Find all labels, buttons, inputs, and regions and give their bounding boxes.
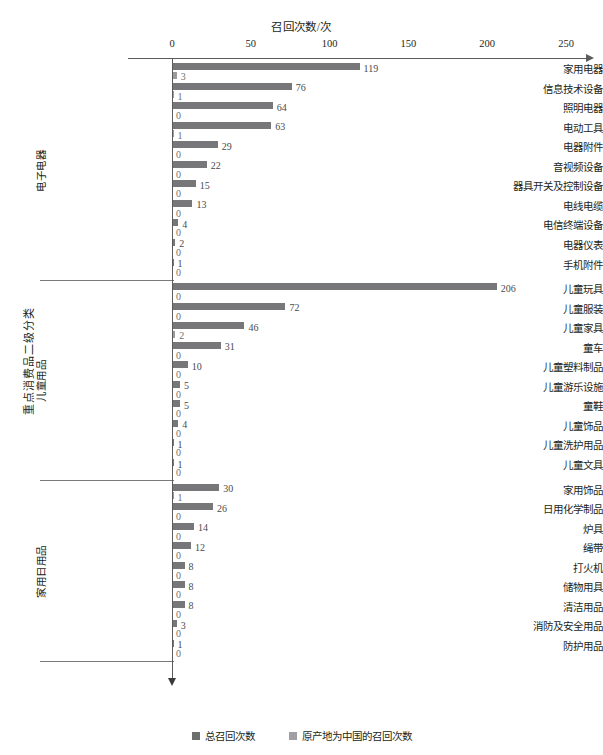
- bar-total: [172, 200, 192, 207]
- bar-total: [172, 342, 221, 349]
- bar-china-value: 0: [176, 409, 181, 418]
- table-row: 童车310: [0, 341, 603, 361]
- bar-china-value: 0: [176, 351, 181, 360]
- legend-item-total[interactable]: 总召回次数: [192, 728, 255, 743]
- category-label: 儿童塑料制品: [433, 361, 603, 374]
- table-row: 儿童饰品40: [0, 419, 603, 439]
- category-label: 电信终端设备: [433, 219, 603, 232]
- bar-total-value: 8: [189, 601, 194, 610]
- bar-total: [172, 180, 196, 187]
- bar-china-value: 0: [176, 370, 181, 379]
- bar-china-value: 0: [176, 429, 181, 438]
- table-row: 储物用具80: [0, 580, 603, 600]
- table-row: 儿童玩具2060: [0, 282, 603, 302]
- table-row: 儿童游乐设施50: [0, 380, 603, 400]
- category-label: 照明电器: [433, 102, 603, 115]
- x-axis-tick-label: 0: [169, 38, 174, 49]
- bar-total-value: 4: [182, 420, 187, 429]
- bar-china-value: 0: [176, 512, 181, 521]
- table-row: 手机附件10: [0, 258, 603, 278]
- legend-swatch-china: [289, 732, 297, 740]
- bar-total: [172, 361, 188, 368]
- bar-china-value: 0: [176, 170, 181, 179]
- legend-swatch-total: [192, 732, 200, 740]
- category-label: 消防及安全用品: [433, 620, 603, 633]
- bar-total-value: 76: [296, 83, 306, 92]
- bar-china-value: 0: [176, 590, 181, 599]
- table-row: 照明电器640: [0, 101, 603, 121]
- bar-china-value: 0: [176, 629, 181, 638]
- bar-china-value: 0: [176, 268, 181, 277]
- category-label: 家用饰品: [433, 484, 603, 497]
- x-axis-tick-label: 50: [246, 38, 257, 49]
- category-label: 储物用具: [433, 581, 603, 594]
- bar-total: [172, 122, 271, 129]
- bar-total: [172, 141, 218, 148]
- category-label: 家用电器: [433, 63, 603, 76]
- table-row: 家用饰品301: [0, 483, 603, 503]
- bar-china-value: 0: [176, 248, 181, 257]
- table-row: 清洁用品80: [0, 600, 603, 620]
- bar-total-value: 22: [211, 161, 221, 170]
- bar-china-value: 0: [176, 571, 181, 580]
- bar-total-value: 72: [289, 303, 299, 312]
- bar-china-value: 0: [176, 551, 181, 560]
- category-label: 音视频设备: [433, 161, 603, 174]
- bar-china-value: 0: [176, 292, 181, 301]
- bar-total-value: 15: [200, 181, 210, 190]
- category-label: 日用化学制品: [433, 503, 603, 516]
- table-row: 炉具140: [0, 522, 603, 542]
- legend-label: 原产地为中国的召回次数: [302, 728, 412, 743]
- table-row: 音视频设备220: [0, 160, 603, 180]
- bar-total: [172, 400, 180, 407]
- group-label: 电子电器: [33, 110, 48, 230]
- table-row: 儿童塑料制品100: [0, 360, 603, 380]
- bar-china-value: 0: [176, 390, 181, 399]
- bar-total: [172, 523, 194, 530]
- table-row: 儿童文具10: [0, 458, 603, 478]
- table-row: 信息技术设备761: [0, 82, 603, 102]
- legend-item-china[interactable]: 原产地为中国的召回次数: [289, 728, 412, 743]
- category-label: 儿童服装: [433, 303, 603, 316]
- bar-china-value: 2: [179, 331, 184, 340]
- y-axis-title: 重点消费品二级分类: [20, 281, 36, 441]
- category-label: 绳带: [433, 542, 603, 555]
- bar-total-value: 13: [196, 200, 206, 209]
- table-row: 电动工具631: [0, 121, 603, 141]
- bar-total: [172, 484, 219, 491]
- category-label: 手机附件: [433, 259, 603, 272]
- bar-total: [172, 542, 191, 549]
- bar-china-value: 0: [176, 448, 181, 457]
- bar-china-value: 3: [181, 72, 186, 81]
- x-axis-line: [128, 58, 586, 59]
- bar-total-value: 10: [192, 362, 202, 371]
- bar-china-value: 0: [176, 228, 181, 237]
- bar-total-value: 8: [189, 582, 194, 591]
- table-row: 儿童家具462: [0, 321, 603, 341]
- bar-total-value: 5: [184, 381, 189, 390]
- bar-total-value: 5: [184, 401, 189, 410]
- category-label: 电动工具: [433, 122, 603, 135]
- x-axis-tick-labels: 050100150200250: [0, 38, 603, 54]
- category-label: 打火机: [433, 562, 603, 575]
- category-label: 儿童家具: [433, 322, 603, 335]
- x-axis-tick-label: 100: [322, 38, 338, 49]
- y-axis-baseline: [172, 58, 173, 678]
- bar-total-value: 3: [181, 621, 186, 630]
- bar-total: [172, 303, 285, 310]
- table-row: 儿童服装720: [0, 302, 603, 322]
- category-label: 炉具: [433, 523, 603, 536]
- bar-total: [172, 601, 185, 608]
- bar-total: [172, 161, 207, 168]
- bar-china-value: 0: [176, 209, 181, 218]
- bar-total-value: 63: [275, 122, 285, 131]
- y-axis-arrow-icon: [168, 678, 176, 686]
- bar-total-value: 29: [222, 142, 232, 151]
- bar-total: [172, 283, 497, 290]
- bar-total-value: 26: [217, 504, 227, 513]
- category-label: 电器仪表: [433, 239, 603, 252]
- bar-china-value: 0: [176, 468, 181, 477]
- category-label: 清洁用品: [433, 601, 603, 614]
- recall-statistics-bar-chart: 召回次数/次050100150200250家用电器1193信息技术设备761照明…: [0, 0, 603, 755]
- bar-total: [172, 102, 273, 109]
